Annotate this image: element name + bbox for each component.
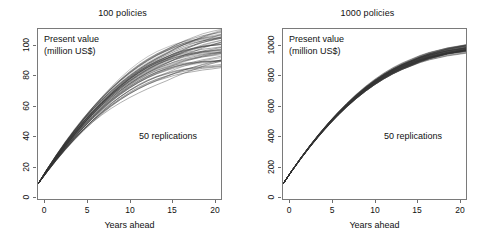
replication-curve (283, 53, 466, 184)
replication-curve (283, 50, 466, 184)
ytick-mark (33, 167, 36, 168)
panel-100-policies: 100 policies 0 20 40 60 80 100 0 5 10 15… (0, 0, 245, 241)
x-axis-title: Years ahead (37, 220, 222, 230)
replication-curve (38, 44, 221, 184)
ytick-label: 20 (21, 157, 31, 177)
replication-curve (283, 46, 466, 184)
replications-annotation: 50 replications (384, 131, 442, 141)
replication-curve (283, 50, 466, 184)
xtick-label: 10 (120, 205, 140, 215)
replication-curve (283, 47, 466, 184)
ytick-label: 80 (21, 65, 31, 85)
replication-curve (283, 47, 466, 184)
replications-annotation: 50 replications (139, 131, 197, 141)
replication-curve (38, 55, 221, 184)
xtick-label: 5 (322, 205, 342, 215)
replication-curve (283, 50, 466, 184)
ytick-mark (278, 167, 281, 168)
replication-curve (283, 49, 466, 184)
replication-curve (283, 45, 466, 184)
ytick-mark (278, 106, 281, 107)
ytick-label: 1000 (266, 29, 276, 61)
replication-curve (38, 49, 221, 184)
replication-curve (283, 45, 466, 184)
replication-curve (38, 35, 221, 184)
replication-curve (283, 46, 466, 184)
ytick-label: 100 (21, 32, 31, 58)
x-axis-title: Years ahead (282, 220, 467, 230)
replication-curve (283, 48, 466, 184)
ytick-label: 40 (21, 126, 31, 146)
replication-curve (38, 50, 221, 184)
replication-curve (38, 50, 221, 184)
replication-curve (283, 49, 466, 184)
ytick-mark (33, 45, 36, 46)
replication-curve (38, 56, 221, 184)
replication-curve (283, 51, 466, 184)
replication-curve (283, 48, 466, 184)
replication-curve (283, 48, 466, 184)
replication-curve (283, 50, 466, 184)
replication-curve (283, 53, 466, 184)
value-axis-label-line1: Present value (44, 33, 99, 45)
ytick-mark (278, 45, 281, 46)
replication-curve (283, 51, 466, 184)
replication-curve (283, 45, 466, 184)
replication-curve (283, 46, 466, 184)
panel-title: 1000 policies (245, 8, 490, 18)
replication-curve (283, 49, 466, 184)
xtick-label: 15 (407, 205, 427, 215)
xtick-mark (417, 200, 418, 203)
replication-curve (283, 51, 466, 184)
replication-curve (283, 49, 466, 184)
replication-curve (283, 49, 466, 184)
ytick-mark (278, 75, 281, 76)
replication-curve (283, 48, 466, 184)
ytick-label: 800 (266, 62, 276, 88)
replication-curve (38, 44, 221, 184)
xtick-label: 10 (365, 205, 385, 215)
replication-curve (283, 46, 466, 184)
xtick-mark (215, 200, 216, 203)
replication-curve (38, 38, 221, 184)
panel-title: 100 policies (0, 8, 245, 18)
ytick-mark (278, 197, 281, 198)
ytick-label: 600 (266, 93, 276, 119)
xtick-mark (87, 200, 88, 203)
replication-curve (283, 53, 466, 184)
replication-curve (283, 52, 466, 184)
ytick-label: 400 (266, 123, 276, 149)
replication-curve (283, 52, 466, 184)
xtick-label: 20 (205, 205, 225, 215)
replication-curve (283, 48, 466, 184)
xtick-mark (375, 200, 376, 203)
xtick-mark (172, 200, 173, 203)
xtick-label: 15 (162, 205, 182, 215)
ytick-label: 0 (266, 187, 276, 207)
xtick-label: 20 (450, 205, 470, 215)
replication-curve (283, 50, 466, 184)
value-axis-label-line1: Present value (289, 33, 344, 45)
ytick-mark (278, 136, 281, 137)
value-axis-label-line2: (million US$) (289, 45, 341, 57)
replication-curve (283, 48, 466, 184)
replication-curve (283, 50, 466, 183)
replication-curve (283, 50, 466, 184)
xtick-mark (130, 200, 131, 203)
ytick-mark (33, 75, 36, 76)
replication-curve (283, 47, 466, 184)
replication-curve (283, 50, 466, 184)
replication-curve (283, 50, 466, 184)
replication-curve (38, 45, 221, 184)
xtick-label: 0 (279, 205, 299, 215)
xtick-label: 5 (77, 205, 97, 215)
replication-curve (283, 45, 466, 184)
ytick-label: 60 (21, 96, 31, 116)
replication-curve (283, 47, 466, 184)
replication-curve (283, 50, 466, 184)
replication-curve (38, 38, 221, 184)
figure-root: 100 policies 0 20 40 60 80 100 0 5 10 15… (0, 0, 490, 241)
value-axis-label-line2: (million US$) (44, 45, 96, 57)
xtick-mark (289, 200, 290, 203)
ytick-mark (33, 106, 36, 107)
